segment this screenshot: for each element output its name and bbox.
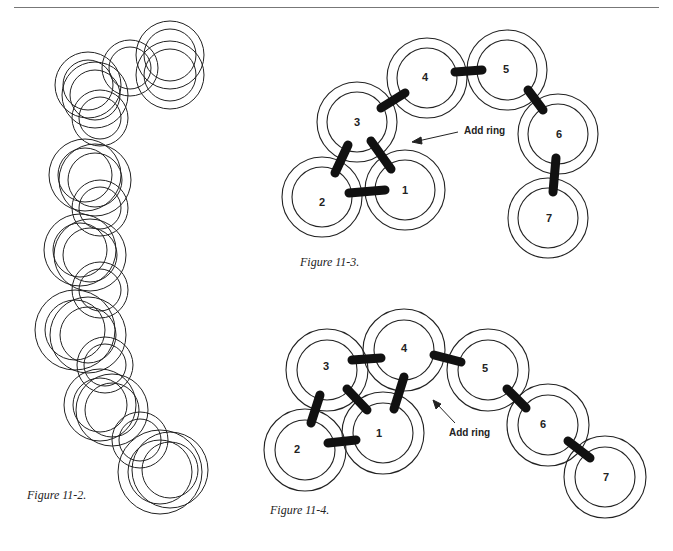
ring-label-7: 7 [603, 471, 609, 483]
ring-2 [264, 409, 346, 491]
ring-label-4: 4 [401, 342, 408, 354]
ring-label-2: 2 [294, 443, 300, 455]
connector-links [311, 355, 590, 458]
figure-11-4-illustration: 1 2 3 4 5 6 7 Add ring [0, 0, 673, 551]
ring-label-6: 6 [540, 418, 546, 430]
ring-1 [342, 392, 424, 474]
figure-11-4-caption: Figure 11-4. [270, 503, 329, 518]
ring-label-3: 3 [323, 360, 329, 372]
ring-label-1: 1 [376, 427, 382, 439]
ring-label-5: 5 [482, 362, 488, 374]
add-ring-annotation: Add ring [449, 427, 490, 438]
arrow-icon [433, 400, 455, 423]
